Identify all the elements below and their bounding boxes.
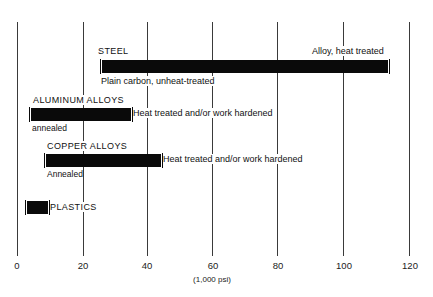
- aluminum-range-bar: [31, 108, 131, 121]
- x-tick-60: 60: [208, 260, 219, 271]
- x-tick-80: 80: [273, 260, 284, 271]
- plastics-range-bar: [27, 201, 48, 214]
- x-axis-label: (1,000 psi): [193, 275, 231, 284]
- steel-label: STEEL: [98, 46, 129, 56]
- gridline-120: [409, 22, 410, 256]
- x-tick-100: 100: [336, 260, 352, 271]
- copper-max-label: Heat treated and/or work hardened: [163, 154, 303, 164]
- x-tick-120: 120: [402, 260, 418, 271]
- aluminum-min-label: annealed: [32, 123, 67, 133]
- gridline-80: [277, 22, 278, 256]
- gridline-60: [212, 22, 213, 256]
- gridline-20: [83, 22, 84, 256]
- copper-range-bar: [46, 154, 161, 167]
- x-tick-0: 0: [14, 260, 19, 271]
- copper-min-label: Annealed: [47, 169, 83, 179]
- x-tick-40: 40: [142, 260, 153, 271]
- gridline-100: [343, 22, 344, 256]
- steel-range-bar: [102, 60, 388, 73]
- steel-min-label: Plain carbon, unheat-treated: [101, 76, 215, 86]
- x-tick-20: 20: [78, 260, 89, 271]
- aluminum-max-label: Heat treated and/or work hardened: [133, 108, 273, 118]
- plastics-label: PLASTICS: [50, 202, 97, 212]
- aluminum-label: ALUMINUM ALLOYS: [33, 95, 124, 105]
- copper-label: COPPER ALLOYS: [47, 141, 127, 151]
- gridline-40: [147, 22, 148, 256]
- gridline-0: [17, 22, 18, 256]
- steel-max-label: Alloy, heat treated: [312, 46, 384, 56]
